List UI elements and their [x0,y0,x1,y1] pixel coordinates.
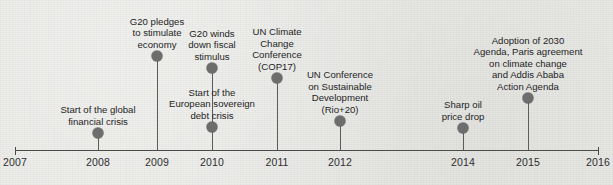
event-label-5: UN Conference on Sustainable Development… [294,69,386,115]
event-label-3: Start of the European sovereign debt cri… [156,87,268,121]
axis-tick-label-2014: 2014 [451,156,475,168]
axis-tick-label-2009: 2009 [145,156,169,168]
axis-tick-label-2016: 2016 [586,156,610,168]
event-marker-6[interactable] [458,123,469,134]
event-label-4: UN Climate Change Conference (COP17) [238,26,316,72]
timeline-chart: 200720082009201020112012201420152016 Sta… [0,0,613,185]
event-marker-0[interactable] [93,128,104,139]
event-marker-5[interactable] [335,116,346,127]
axis-tick-label-2010: 2010 [200,156,224,168]
axis-baseline [15,150,598,151]
axis-tick-label-2008: 2008 [86,156,110,168]
event-label-7: Adoption of 2030 Agenda, Paris agreement… [463,35,593,92]
event-marker-4[interactable] [272,73,283,84]
event-marker-2[interactable] [207,63,218,74]
axis-tick-label-2015: 2015 [516,156,540,168]
event-label-0: Start of the global financial crisis [38,104,158,127]
event-label-6: Sharp oil price drop [425,99,501,122]
event-marker-3[interactable] [207,122,218,133]
event-marker-7[interactable] [523,93,534,104]
axis-start-cap [15,147,16,155]
axis-end-cap [598,147,599,155]
axis-tick-label-2007: 2007 [3,156,27,168]
event-marker-1[interactable] [152,51,163,62]
axis-tick-label-2011: 2011 [266,156,289,168]
event-stem-7 [528,98,529,150]
axis-tick-label-2012: 2012 [328,156,352,168]
event-stem-4 [277,78,278,150]
